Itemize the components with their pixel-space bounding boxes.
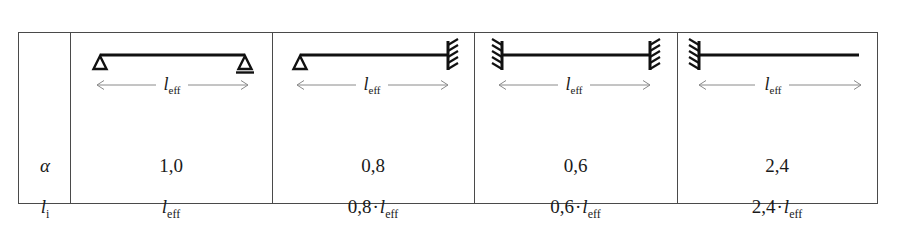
alpha-value: 2,4 <box>765 155 789 176</box>
beam-support-table: leff leff <box>18 32 878 204</box>
beam-diagram-svg-4: leff <box>677 33 877 137</box>
beam-diagram-simply-supported: leff <box>70 33 272 137</box>
pin-support-icon <box>94 56 107 69</box>
li-length-subscript: eff <box>789 207 802 221</box>
li-value-cell-4: 2,4·leff <box>677 196 877 222</box>
roller-support-icon <box>239 56 252 69</box>
row-label-alpha: α <box>19 155 71 177</box>
multiplication-dot: · <box>776 196 784 217</box>
li-length-subscript: eff <box>588 207 601 221</box>
beam-diagram-svg-2: leff <box>272 33 474 137</box>
alpha-value-cell-3: 0,6 <box>474 155 677 177</box>
dimension-label: leff <box>363 74 380 96</box>
beam-diagram-pinned-fixed: leff <box>272 33 474 137</box>
alpha-value-cell-1: 1,0 <box>70 155 272 177</box>
beam-diagram-svg-1: leff <box>70 33 272 137</box>
alpha-value-cell-4: 2,4 <box>677 155 877 177</box>
li-length-subscript: eff <box>385 207 398 221</box>
multiplication-dot: · <box>372 196 380 217</box>
alpha-value: 0,6 <box>564 155 588 176</box>
li-coefficient: 0,6 <box>550 196 574 217</box>
dimension-label: leff <box>163 74 180 96</box>
beam-diagram-svg-3: leff <box>474 33 677 137</box>
alpha-value-cell-2: 0,8 <box>272 155 474 177</box>
pin-support-icon <box>294 56 307 69</box>
row-label-li: li <box>19 196 71 222</box>
alpha-value: 1,0 <box>159 155 183 176</box>
li-value-cell-2: 0,8·leff <box>272 196 474 222</box>
alpha-symbol: α <box>40 155 50 176</box>
dimension-label: leff <box>565 74 582 96</box>
fixed-support-icon-left <box>492 39 502 70</box>
fixed-support-icon <box>448 39 458 70</box>
li-subscript: i <box>46 207 49 221</box>
li-coefficient: 0,8 <box>348 196 372 217</box>
li-length-subscript: eff <box>167 207 180 221</box>
li-value-cell-1: leff <box>70 196 272 222</box>
beam-diagram-cantilever: leff <box>677 33 877 137</box>
li-coefficient: 2,4 <box>752 196 776 217</box>
fixed-support-icon-right <box>650 39 660 70</box>
fixed-support-icon <box>689 39 699 70</box>
dimension-label: leff <box>764 74 781 96</box>
alpha-value: 0,8 <box>361 155 385 176</box>
li-value-cell-3: 0,6·leff <box>474 196 677 222</box>
beam-diagram-fixed-fixed: leff <box>474 33 677 137</box>
